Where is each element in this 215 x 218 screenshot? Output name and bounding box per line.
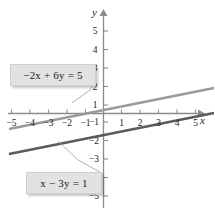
ytick-label-5: 5 <box>93 26 98 36</box>
xtick-label--4: −4 <box>25 118 35 128</box>
x-axis-label: x <box>200 114 205 126</box>
line-x-minus-3y-equals-1 <box>9 113 214 154</box>
callout-leader-line-1 <box>72 84 94 103</box>
xtick-label-2: 2 <box>138 118 143 128</box>
ytick-label-4: 4 <box>93 45 98 55</box>
equation-label-line-1: −2x + 6y = 5 <box>10 64 96 86</box>
equation-label-line-2-text: x − 3y = 1 <box>40 177 87 189</box>
xtick-label-4: 4 <box>175 118 180 128</box>
xtick-label--3: −3 <box>43 118 53 128</box>
xtick-label-5: 5 <box>193 118 198 128</box>
y-axis-label: y <box>92 6 97 18</box>
equation-label-line-2: x − 3y = 1 <box>26 172 102 194</box>
equation-label-line-1-text: −2x + 6y = 5 <box>23 69 83 81</box>
xtick-label--2: −2 <box>62 118 72 128</box>
ytick-label--1: −1 <box>89 117 99 127</box>
y-axis-arrowhead <box>100 9 108 16</box>
line-minus2x-plus-6y-equals-5 <box>9 88 214 129</box>
xtick-label-3: 3 <box>156 118 161 128</box>
ytick-label--2: −2 <box>89 136 99 146</box>
ytick-label--3: −3 <box>89 154 99 164</box>
xtick-label-1: 1 <box>119 118 124 128</box>
xtick-label--5: −5 <box>6 118 16 128</box>
ytick-label-1: 1 <box>93 100 98 110</box>
coordinate-plane-figure: −5 −4 −3 −2 −1 1 2 3 4 5 5 4 3 2 1 −1 −2… <box>0 0 215 218</box>
